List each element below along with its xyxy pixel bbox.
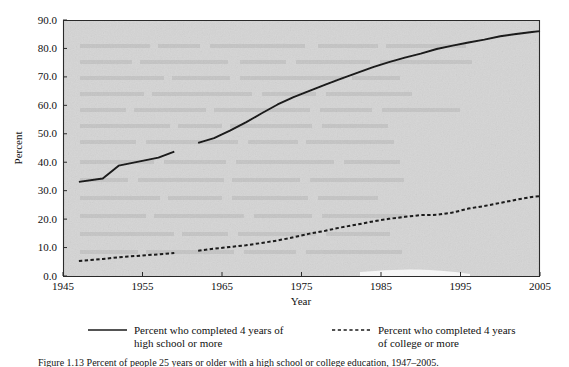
y-axis-title: Percent — [12, 132, 24, 165]
x-tick-label: 1945 — [52, 280, 75, 292]
y-tick-label: 50.0 — [38, 127, 58, 139]
legend-label-high-school-line2: high school or more — [134, 337, 222, 349]
x-tick-label: 1965 — [211, 280, 234, 292]
y-tick-label: 10.0 — [38, 241, 58, 253]
y-axis: 0.010.020.030.040.050.060.070.080.090.0 — [38, 14, 67, 282]
figure-container: 0.010.020.030.040.050.060.070.080.090.0 … — [0, 0, 569, 367]
y-tick-label: 40.0 — [38, 156, 58, 168]
y-tick-label: 80.0 — [38, 42, 58, 54]
y-tick-label: 20.0 — [38, 213, 58, 225]
y-tick-label: 30.0 — [38, 184, 58, 196]
x-tick-label: 1955 — [132, 280, 155, 292]
chart-legend: Percent who completed 4 years of high sc… — [88, 324, 515, 349]
x-axis-title: Year — [291, 295, 312, 307]
x-tick-label: 1985 — [370, 280, 393, 292]
legend-label-college-line1: Percent who completed 4 years — [378, 324, 515, 336]
plot-area-background — [63, 20, 540, 277]
x-tick-label: 1975 — [291, 280, 314, 292]
legend-item-college: Percent who completed 4 years of college… — [332, 324, 515, 349]
x-tick-label: 2005 — [529, 280, 552, 292]
x-tick-label: 1995 — [450, 280, 473, 292]
legend-label-college-line2: of college or more — [378, 337, 459, 349]
y-tick-label: 60.0 — [38, 99, 58, 111]
chart-canvas: 0.010.020.030.040.050.060.070.080.090.0 … — [0, 0, 569, 367]
y-tick-label: 90.0 — [38, 14, 58, 26]
legend-label-high-school-line1: Percent who completed 4 years of — [134, 324, 284, 336]
figure-caption: Figure 1.13 Percent of people 25 years o… — [38, 357, 439, 367]
y-tick-label: 70.0 — [38, 70, 58, 82]
legend-item-high-school: Percent who completed 4 years of high sc… — [88, 324, 284, 349]
